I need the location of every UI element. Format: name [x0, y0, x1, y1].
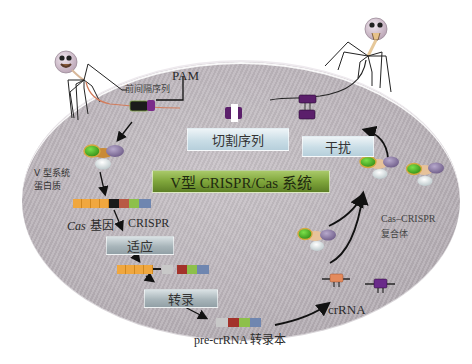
arrow-protein-to-gene: [100, 172, 105, 194]
complex-label-2: 复合体: [381, 227, 408, 240]
arrow-adaptation-to-array: [134, 254, 139, 261]
cleaved-dna: [225, 95, 316, 122]
system-title-box: V型 CRISPR/Cas 系统: [152, 170, 330, 193]
cas-gene-suffix: 基因: [86, 219, 114, 233]
cas-protein-complex-left: [84, 145, 124, 170]
arrow-infection: [118, 122, 132, 140]
adaptation-box: 适应: [106, 236, 174, 255]
phage-right-icon: [270, 18, 391, 100]
expanded-crispr-array: [117, 265, 209, 274]
pam-label: PAM: [172, 68, 199, 84]
arrow-gene-to-adaptation: [114, 210, 122, 229]
transcription-box: 转录: [144, 289, 218, 308]
arrow-array-to-transcription: [146, 276, 153, 281]
complex-label-1: Cas–CRISPR: [381, 213, 435, 224]
arrow-crrna-to-complex: [330, 194, 363, 263]
cas-crispr-complex-2: [407, 163, 445, 187]
cas-gene-italic: Cas: [67, 219, 86, 233]
crrna-purple: [365, 279, 395, 293]
crrna-orange: [322, 274, 350, 287]
crispr-label: CRISPR: [128, 216, 169, 231]
interference-box: 干扰: [302, 136, 374, 157]
pre-crrna-label: pre-crRNA 转录本: [194, 330, 286, 348]
type-v-protein-label-1: V 型系统: [34, 166, 70, 179]
protospacer-label: 前间隔序列: [125, 82, 170, 95]
cas-gene-label: Cas 基因: [67, 216, 114, 234]
pre-crrna-transcript: [216, 318, 261, 327]
type-v-protein-label-2: 蛋白质: [34, 179, 61, 192]
cas-crispr-locus: [73, 199, 151, 208]
arrow-precrrna-to-crrna: [275, 304, 328, 325]
cas-protein-free: [298, 229, 336, 252]
cleavage-sequence-box: 切割序列: [187, 128, 289, 151]
crrna-label: crRNA: [328, 302, 366, 318]
cas-crispr-complex-1: [360, 157, 399, 180]
crispr-diagram: 切割序列 干扰 V型 CRISPR/Cas 系统 适应 转录 PAM 前间隔序列…: [0, 0, 472, 364]
